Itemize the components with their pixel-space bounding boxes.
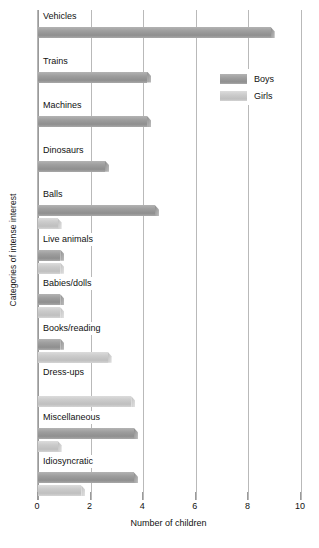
bar-boys xyxy=(38,472,134,483)
bar-cap xyxy=(60,307,64,318)
bar-cap xyxy=(60,250,64,261)
category-label: Books/reading xyxy=(41,322,104,335)
bar-cap xyxy=(108,352,112,363)
x-tick-label: 10 xyxy=(295,501,305,511)
gridline-10 xyxy=(301,10,302,500)
bar-boys xyxy=(38,250,60,261)
x-axis: Number of children 0246810 xyxy=(37,500,300,548)
category-label: Idiosyncratic xyxy=(41,455,96,468)
bar-boys xyxy=(38,339,60,350)
bar-cap xyxy=(147,72,151,83)
legend-swatch-boys xyxy=(220,74,247,84)
bar-cap xyxy=(134,472,138,483)
category-label: Babies/dolls xyxy=(41,277,95,290)
category-row: Dinosaurs xyxy=(38,144,301,189)
category-row: Dress-ups xyxy=(38,366,301,411)
bar-girls xyxy=(38,307,60,318)
legend-label: Girls xyxy=(254,91,273,101)
bar-girls xyxy=(38,485,81,496)
bar-cap xyxy=(58,441,62,452)
category-row: Vehicles xyxy=(38,10,301,55)
x-tick-mark xyxy=(300,492,301,500)
category-label: Vehicles xyxy=(41,10,80,23)
x-tick-label: 2 xyxy=(87,501,92,511)
bar-cap xyxy=(81,485,85,496)
bar-cap xyxy=(134,428,138,439)
x-tick-label: 8 xyxy=(245,501,250,511)
bar-cap xyxy=(271,27,275,38)
bar-cap xyxy=(60,294,64,305)
bar-girls xyxy=(38,218,58,229)
chart-legend: BoysGirls xyxy=(218,69,276,105)
bar-girls xyxy=(38,441,58,452)
bar-cap xyxy=(105,161,109,172)
bar-boys xyxy=(38,72,147,83)
bar-boys xyxy=(38,294,60,305)
bar-boys xyxy=(38,27,271,38)
y-axis-title-text: Categories of intense interest xyxy=(8,193,18,306)
x-tick-mark xyxy=(195,492,196,500)
bar-cap xyxy=(147,116,151,127)
x-tick-label: 0 xyxy=(34,501,39,511)
category-row: Live animals xyxy=(38,233,301,278)
category-row: Books/reading xyxy=(38,322,301,367)
bar-girls xyxy=(38,396,131,407)
legend-item-girls[interactable]: Girls xyxy=(220,87,274,104)
x-axis-title: Number of children xyxy=(37,518,300,528)
category-row: Babies/dolls xyxy=(38,277,301,322)
category-label: Machines xyxy=(41,99,85,112)
x-tick-mark xyxy=(90,492,91,500)
category-row: Idiosyncratic xyxy=(38,455,301,500)
bar-cap xyxy=(155,205,159,216)
bar-cap xyxy=(58,218,62,229)
bar-cap xyxy=(60,263,64,274)
bar-boys xyxy=(38,161,105,172)
category-label: Dress-ups xyxy=(41,366,87,379)
x-tick-label: 6 xyxy=(192,501,197,511)
bar-boys xyxy=(38,116,147,127)
bar-girls xyxy=(38,352,108,363)
category-label: Dinosaurs xyxy=(41,144,87,157)
legend-item-boys[interactable]: Boys xyxy=(220,70,274,87)
category-label: Live animals xyxy=(41,233,96,246)
x-tick-label: 4 xyxy=(140,501,145,511)
y-axis-title: Categories of intense interest xyxy=(4,0,22,500)
legend-label: Boys xyxy=(254,74,274,84)
category-row: Balls xyxy=(38,188,301,233)
category-label: Balls xyxy=(41,188,66,201)
category-label: Trains xyxy=(41,55,71,68)
bar-cap xyxy=(60,339,64,350)
category-row: Miscellaneous xyxy=(38,411,301,456)
bar-boys xyxy=(38,205,155,216)
bar-chart-figure: Categories of intense interest VehiclesT… xyxy=(0,0,319,548)
legend-swatch-girls xyxy=(220,91,247,101)
bar-girls xyxy=(38,263,60,274)
category-label: Miscellaneous xyxy=(41,411,103,424)
category-row: Machines xyxy=(38,99,301,144)
bar-cap xyxy=(131,396,135,407)
bar-boys xyxy=(38,428,134,439)
x-tick-mark xyxy=(247,492,248,500)
x-tick-mark xyxy=(142,492,143,500)
